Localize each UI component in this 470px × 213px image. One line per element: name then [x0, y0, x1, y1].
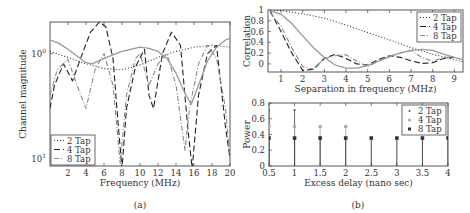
x-tick-label: 7: [408, 74, 413, 84]
x-tick-label: 6: [101, 168, 106, 178]
chart-b-bottom: 0.511.522.533.5400.20.40.60.8Excess dela…: [242, 98, 451, 210]
y-tick-label: 0.8: [251, 98, 265, 108]
x-tick-label: 1: [278, 74, 283, 84]
x-tick-label: 20: [225, 168, 236, 178]
x-tick-label: 14: [171, 168, 182, 178]
x-tick-label: 4: [343, 74, 348, 84]
chart-b-top: 12345678900.20.40.60.81Separation in fre…: [242, 5, 463, 94]
y-tick-label: 101: [31, 152, 46, 164]
y-tick-label: 100: [31, 47, 46, 59]
y-axis-label: Correlation: [242, 15, 252, 67]
y-tick-label: 0.4: [250, 37, 264, 47]
x-tick-label: 1.5: [313, 168, 327, 178]
y-tick-label: 0.2: [251, 145, 265, 155]
y-tick-label: 0.6: [250, 27, 264, 37]
x-tick-label: 3.5: [416, 168, 430, 178]
x-tick-label: 8: [430, 74, 435, 84]
legend: 2 Tap4 Tap8 Tap: [402, 105, 446, 135]
legend: 2 Tap4 Tap8 Tap: [51, 135, 95, 165]
y-tick-label: 0.4: [251, 130, 265, 140]
figure: 2468101214161820100101Frequency (MHz)Cha…: [0, 0, 470, 213]
x-tick-label: 16: [189, 168, 200, 178]
y-axis-label: Channel magnitude: [18, 49, 28, 139]
series-reference-solid: [50, 38, 230, 104]
x-tick-label: 2.5: [365, 168, 379, 178]
y-tick-label: 0: [259, 59, 264, 69]
y-axis-label: Power: [242, 120, 252, 149]
y-tick-label: 0: [260, 161, 265, 171]
legend-entry: 8 Tap: [433, 31, 457, 41]
x-tick-label: 3: [394, 168, 399, 178]
figure-canvas: 2468101214161820100101Frequency (MHz)Cha…: [0, 0, 470, 213]
x-tick-label: 18: [207, 168, 218, 178]
x-tick-label: 9: [452, 74, 457, 84]
x-tick-label: 5: [365, 74, 370, 84]
y-tick-label: 0.6: [251, 114, 265, 124]
x-tick-label: 1: [292, 168, 297, 178]
x-tick-label: 8: [119, 168, 124, 178]
x-tick-label: 4: [83, 168, 88, 178]
legend: 2 Tap4 Tap8 Tap: [417, 12, 461, 42]
y-tick-label: 0.2: [250, 48, 264, 58]
x-tick-label: 2: [343, 168, 348, 178]
x-tick-label: 3: [322, 74, 327, 84]
chart-a: 2468101214161820100101Frequency (MHz)Cha…: [18, 22, 235, 210]
x-axis-label: Separation in frequency (MHz): [295, 84, 437, 94]
x-tick-label: 12: [153, 168, 164, 178]
x-tick-label: 2: [65, 168, 70, 178]
x-tick-label: 6: [387, 74, 392, 84]
x-axis-label: Excess delay (nano sec): [304, 178, 413, 188]
x-tick-label: 4: [445, 168, 450, 178]
legend-entry: 8 Tap: [418, 124, 442, 134]
x-axis-label: Frequency (MHz): [100, 178, 180, 188]
panel-caption: (b): [352, 200, 365, 210]
panel-caption: (a): [134, 200, 146, 210]
y-tick-label: 1: [259, 5, 264, 15]
y-tick-label: 0.8: [250, 16, 264, 26]
x-tick-label: 10: [135, 168, 146, 178]
legend-entry: 8 Tap: [67, 154, 91, 164]
x-tick-label: 2: [300, 74, 305, 84]
